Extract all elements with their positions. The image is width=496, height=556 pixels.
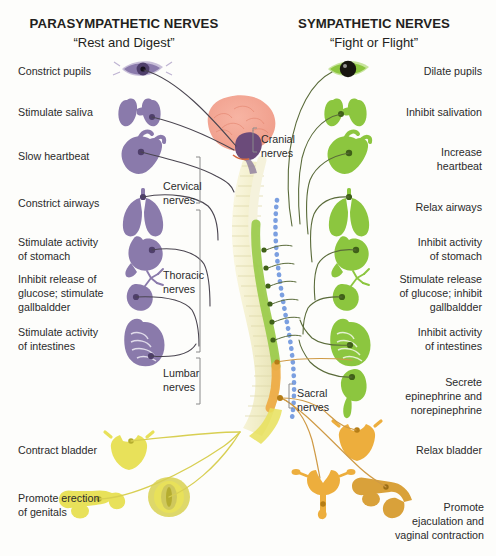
label-relax-bladder: Relax bladder bbox=[378, 443, 482, 457]
label-lumbar-nerves: Lumbar nerves bbox=[163, 366, 199, 394]
label-inhibit-intestines: Inhibit activity of intestines bbox=[378, 325, 482, 353]
label-slow-heartbeat: Slow heartbeat bbox=[18, 149, 89, 163]
stomach-icon bbox=[125, 236, 162, 277]
bladder-icon bbox=[105, 432, 153, 470]
label-stimulate-intestines: Stimulate activity of intestines bbox=[18, 325, 98, 353]
parasympathetic-heading-block: PARASYMPATHETIC NERVES “Rest and Digest” bbox=[6, 16, 242, 50]
salivary-gland-icon bbox=[324, 99, 366, 127]
sympathetic-heading: SYMPATHETIC NERVES bbox=[256, 16, 492, 32]
adrenal-kidney-icon bbox=[341, 369, 367, 418]
label-stimulate-glucose-release: Stimulate release of glucose; inhibit ga… bbox=[362, 272, 482, 315]
eye-icon bbox=[113, 61, 172, 76]
label-cervical-nerves: Cervical nerves bbox=[163, 179, 202, 207]
label-stimulate-saliva: Stimulate saliva bbox=[18, 105, 93, 119]
salivary-gland-icon bbox=[118, 99, 160, 127]
intestines-icon bbox=[124, 319, 164, 367]
label-relax-airways: Relax airways bbox=[378, 200, 482, 214]
label-increase-heartbeat: Increase heartbeat bbox=[382, 145, 482, 173]
label-inhibit-stomach: Inhibit activity of stomach bbox=[378, 235, 482, 263]
label-dilate-pupils: Dilate pupils bbox=[378, 64, 482, 78]
label-promote-erection: Promote erection of genitals bbox=[18, 491, 99, 519]
label-promote-ejaculation: Promote ejaculation and vaginal contract… bbox=[358, 500, 484, 543]
sympathetic-subheading: “Fight or Flight” bbox=[256, 35, 492, 50]
label-secrete-epinephrine: Secrete epinephrine and norepinephrine bbox=[366, 375, 482, 418]
sympathetic-heading-block: SYMPATHETIC NERVES “Fight or Flight” bbox=[256, 16, 492, 50]
label-constrict-airways: Constrict airways bbox=[18, 196, 99, 210]
bladder-icon bbox=[333, 421, 381, 461]
label-sacral-nerves: Sacral nerves bbox=[297, 386, 329, 414]
parasympathetic-subheading: “Rest and Digest” bbox=[6, 35, 242, 50]
label-inhibit-salivation: Inhibit salivation bbox=[368, 105, 482, 119]
label-thoracic-nerves: Thoracic nerves bbox=[163, 268, 204, 296]
label-cranial-nerves: Cranial nerves bbox=[261, 132, 295, 160]
lungs-icon bbox=[329, 188, 369, 236]
eye-icon bbox=[328, 61, 369, 77]
parasympathetic-heading: PARASYMPATHETIC NERVES bbox=[6, 16, 242, 32]
uterus-icon bbox=[292, 469, 356, 519]
label-stimulate-stomach: Stimulate activity of stomach bbox=[18, 235, 98, 263]
label-inhibit-glucose-release: Inhibit release of glucose; stimulate ga… bbox=[18, 272, 104, 315]
diagram-canvas: PARASYMPATHETIC NERVES “Rest and Digest”… bbox=[0, 0, 496, 556]
label-contract-bladder: Contract bladder bbox=[18, 443, 97, 457]
label-constrict-pupils: Constrict pupils bbox=[18, 64, 91, 78]
